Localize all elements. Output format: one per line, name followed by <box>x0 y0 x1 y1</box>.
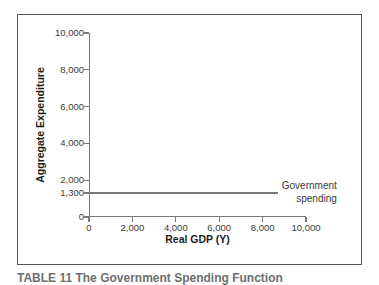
government-spending-label: Governmentspending <box>282 180 337 205</box>
government-spending-line <box>89 192 278 194</box>
y-axis-tick <box>84 69 89 70</box>
y-axis-line <box>89 33 90 217</box>
y-axis-tick-label: 2,000 <box>60 175 84 185</box>
government-spending-label-line-1: Government <box>282 180 337 193</box>
y-axis-tick-label: 6,000 <box>60 102 84 112</box>
y-axis-tick <box>84 180 89 181</box>
figure-frame: Aggregate Expenditure 01,3002,0004,0006,… <box>17 14 362 265</box>
x-axis-title: Real GDP (Y) <box>89 233 306 245</box>
x-axis-tick-label: 8,000 <box>251 223 275 233</box>
y-axis-tick-label: 1,300 <box>60 188 84 198</box>
x-axis-tick-label: 10,000 <box>291 223 320 233</box>
y-axis-tick <box>84 106 89 107</box>
x-axis-tick-label: 4,000 <box>164 223 188 233</box>
y-axis-tick-label: 4,000 <box>60 138 84 148</box>
x-axis-line <box>89 216 306 217</box>
government-spending-label-line-2: spending <box>282 193 337 206</box>
plot-area: 01,3002,0004,0006,0008,00010,000 02,0004… <box>89 33 306 217</box>
y-axis-tick-label: 10,000 <box>55 28 84 38</box>
y-axis-tick <box>84 32 89 33</box>
x-axis-tick-label: 0 <box>86 223 91 233</box>
figure-caption: TABLE 11 The Government Spending Functio… <box>17 271 362 285</box>
y-axis-tick-label: 8,000 <box>60 65 84 75</box>
x-axis-tick-label: 2,000 <box>121 223 145 233</box>
y-axis-tick-labels: 01,3002,0004,0006,0008,00010,000 <box>42 33 84 217</box>
y-axis-tick-label: 0 <box>79 212 84 222</box>
y-axis-tick <box>84 143 89 144</box>
x-axis-tick-label: 6,000 <box>207 223 231 233</box>
